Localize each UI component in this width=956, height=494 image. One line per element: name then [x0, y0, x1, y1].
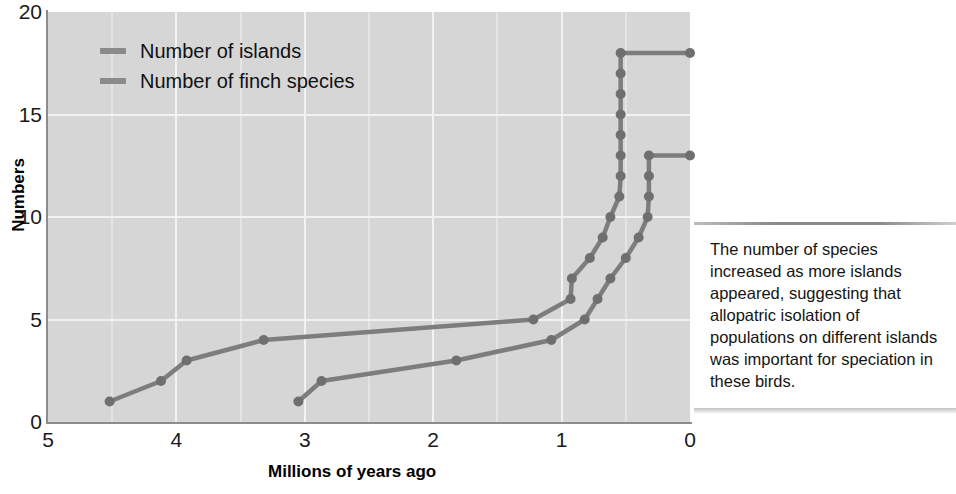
- caption-bottom-shadow: [694, 408, 956, 414]
- legend-item-islands: Number of islands: [100, 36, 390, 66]
- legend-label-islands: Number of islands: [140, 40, 301, 63]
- series-finch-species: [293, 151, 695, 407]
- data-point-marker: [566, 294, 576, 304]
- x-tick-label: 5: [18, 428, 78, 452]
- data-point-marker: [685, 151, 695, 161]
- data-point-marker: [605, 274, 615, 284]
- data-point-marker: [616, 48, 626, 58]
- data-point-marker: [616, 110, 626, 120]
- legend-swatch-finch-species: [100, 78, 126, 84]
- series-islands: [105, 48, 695, 407]
- data-point-marker: [644, 151, 654, 161]
- data-point-marker: [685, 48, 695, 58]
- caption-text: The number of species increased as more …: [710, 239, 944, 393]
- data-point-marker: [546, 335, 556, 345]
- data-point-marker: [259, 335, 269, 345]
- data-point-marker: [634, 233, 644, 243]
- data-point-marker: [643, 212, 653, 222]
- y-axis-title: Numbers: [9, 158, 29, 232]
- data-point-marker: [616, 151, 626, 161]
- data-point-marker: [528, 315, 538, 325]
- x-tick-label: 1: [532, 428, 592, 452]
- data-point-marker: [616, 69, 626, 79]
- data-point-marker: [156, 376, 166, 386]
- data-point-marker: [616, 130, 626, 140]
- data-point-marker: [616, 171, 626, 181]
- data-point-marker: [614, 192, 624, 202]
- legend-item-finch-species: Number of finch species: [100, 66, 390, 96]
- legend-label-finch-species: Number of finch species: [140, 70, 355, 93]
- series-line: [110, 53, 690, 402]
- data-point-marker: [593, 294, 603, 304]
- data-point-marker: [644, 171, 654, 181]
- data-point-marker: [182, 356, 192, 366]
- data-point-marker: [616, 89, 626, 99]
- data-point-marker: [644, 192, 654, 202]
- data-point-marker: [621, 253, 631, 263]
- caption-top-rule: [694, 222, 956, 225]
- data-point-marker: [567, 274, 577, 284]
- x-tick-label: 4: [146, 428, 206, 452]
- x-tick-label: 0: [660, 428, 720, 452]
- data-point-marker: [316, 376, 326, 386]
- caption-box: The number of species increased as more …: [694, 222, 956, 408]
- data-point-marker: [605, 212, 615, 222]
- legend-swatch-islands: [100, 48, 126, 54]
- data-point-marker: [451, 356, 461, 366]
- x-axis-title: Millions of years ago: [268, 462, 436, 482]
- series-line: [298, 156, 690, 402]
- chart-figure: 05101520 543210 Numbers Millions of year…: [0, 0, 956, 494]
- y-tick-label: 20: [0, 0, 42, 24]
- data-point-marker: [598, 233, 608, 243]
- y-tick-label: 5: [0, 308, 42, 332]
- data-point-marker: [105, 397, 115, 407]
- chart-legend: Number of islands Number of finch specie…: [100, 36, 390, 96]
- x-tick-label: 3: [275, 428, 335, 452]
- data-point-marker: [580, 315, 590, 325]
- x-tick-label: 2: [403, 428, 463, 452]
- data-point-marker: [293, 397, 303, 407]
- y-tick-label: 15: [0, 103, 42, 127]
- data-point-marker: [585, 253, 595, 263]
